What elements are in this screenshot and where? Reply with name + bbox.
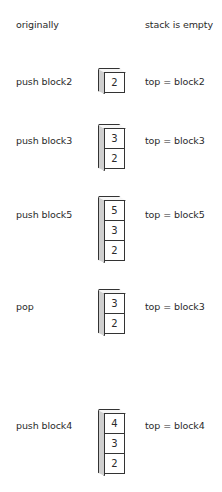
state-label: stack is empty <box>145 19 213 30</box>
action-label: push block5 <box>16 209 72 220</box>
state-label: top = block3 <box>145 301 205 312</box>
block: 2 <box>104 453 125 474</box>
block: 3 <box>104 128 125 149</box>
block: 2 <box>104 240 125 261</box>
state-label: top = block5 <box>145 209 205 220</box>
block: 3 <box>104 220 125 241</box>
block: 3 <box>104 293 125 314</box>
action-label: originally <box>16 19 59 30</box>
state-label: top = block2 <box>145 76 205 87</box>
action-label: pop <box>16 301 34 312</box>
action-label: push block4 <box>16 420 72 431</box>
block: 2 <box>104 313 125 334</box>
block: 3 <box>104 433 125 454</box>
state-label: top = block4 <box>145 420 205 431</box>
block: 5 <box>104 200 125 221</box>
block: 4 <box>104 413 125 434</box>
action-label: push block3 <box>16 135 72 146</box>
state-label: top = block3 <box>145 135 205 146</box>
block: 2 <box>104 72 125 93</box>
action-label: push block2 <box>16 76 72 87</box>
block: 2 <box>104 148 125 169</box>
